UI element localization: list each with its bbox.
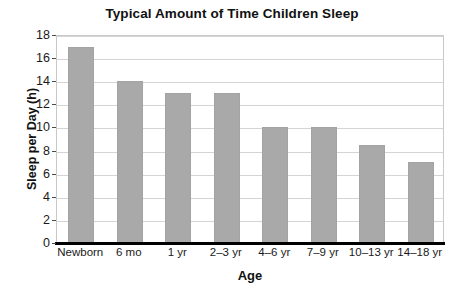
y-axis-tick-label: 2 <box>6 213 50 227</box>
bar <box>68 47 94 243</box>
y-axis-tick-mark <box>52 174 56 175</box>
x-axis-tick-label: 10–13 yr <box>349 246 394 258</box>
sleep-duration-bar-chart: Typical Amount of Time Children Sleep Sl… <box>0 0 464 302</box>
y-axis-tick-mark <box>52 104 56 105</box>
gridline <box>57 36 443 37</box>
chart-title: Typical Amount of Time Children Sleep <box>0 6 464 21</box>
x-axis-line <box>55 242 445 245</box>
y-axis-tick-label: 14 <box>6 74 50 88</box>
gridline <box>57 105 443 106</box>
y-axis-tick-label: 18 <box>6 28 50 42</box>
y-axis-tick-labels: 024681012141618 <box>0 0 50 302</box>
x-axis-title: Age <box>56 268 444 283</box>
y-axis-tick-label: 16 <box>6 51 50 65</box>
bar <box>408 162 434 243</box>
y-axis-tick-mark <box>52 58 56 59</box>
x-axis-tick-label: 7–9 yr <box>307 246 339 258</box>
plot-area <box>56 35 444 243</box>
x-axis-tick-label: 1 yr <box>168 246 187 258</box>
y-axis-tick-label: 4 <box>6 190 50 204</box>
gridline <box>57 59 443 60</box>
gridline <box>57 82 443 83</box>
y-axis-tick-mark <box>52 35 56 36</box>
bar <box>359 145 385 243</box>
y-axis-tick-mark <box>52 127 56 128</box>
x-axis-tick-label: 4–6 yr <box>258 246 290 258</box>
y-axis-tick-mark <box>52 243 56 244</box>
y-axis-tick-mark <box>52 151 56 152</box>
y-axis-tick-mark <box>52 220 56 221</box>
gridline <box>57 128 443 129</box>
y-axis-tick-label: 8 <box>6 144 50 158</box>
x-axis-tick-label: 6 mo <box>116 246 142 258</box>
x-axis-tick-label: 14–18 yr <box>397 246 442 258</box>
bar <box>117 81 143 243</box>
bar <box>311 127 337 243</box>
y-axis-tick-label: 10 <box>6 120 50 134</box>
y-axis-tick-mark <box>52 81 56 82</box>
y-axis-tick-mark <box>52 197 56 198</box>
x-axis-tick-label: Newborn <box>57 246 103 258</box>
bar <box>165 93 191 243</box>
bar <box>262 127 288 243</box>
y-axis-tick-label: 0 <box>6 236 50 250</box>
y-axis-tick-label: 6 <box>6 167 50 181</box>
y-axis-tick-label: 12 <box>6 97 50 111</box>
x-axis-tick-label: 2–3 yr <box>210 246 242 258</box>
bar <box>214 93 240 243</box>
